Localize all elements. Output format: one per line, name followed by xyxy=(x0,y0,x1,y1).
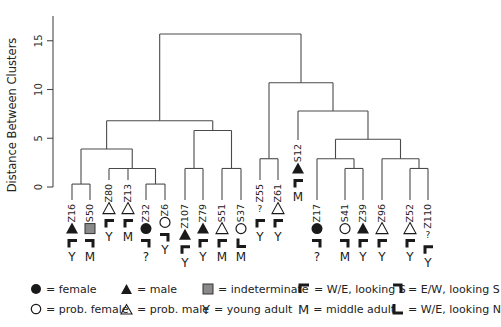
bracket-ew-south-icon xyxy=(392,283,404,295)
legend-we-looking-n: = W/E, looking N xyxy=(392,300,501,318)
legend-we-looking-s: = W/E, looking S xyxy=(298,280,406,298)
legend-prob-male: = prob. male xyxy=(120,300,209,318)
y-axis-label-wrap: Distance Between Clusters xyxy=(2,35,26,195)
gray-square-icon xyxy=(85,224,95,234)
filled-triangle-icon xyxy=(197,223,209,234)
open-triangle-icon xyxy=(272,203,284,214)
filled-triangle-icon xyxy=(120,283,133,295)
leaf-label: Z13 xyxy=(122,184,133,203)
bracket-we-south-icon xyxy=(125,221,133,228)
leaf-label: Z17 xyxy=(311,204,322,223)
bracket-we-north-icon xyxy=(238,239,246,247)
unknown-sex-mark: ? xyxy=(426,230,431,240)
bracket-we-south-icon xyxy=(257,221,265,228)
bracket-ew-south-icon xyxy=(160,234,168,241)
y-axis-label: Distance Between Clusters xyxy=(5,38,19,193)
bracket-we-south-icon xyxy=(275,221,283,228)
bracket-ew-south-icon xyxy=(141,241,149,248)
bracket-we-south-icon xyxy=(379,241,387,248)
filled-circle-icon xyxy=(141,223,152,234)
age-class-label: Y xyxy=(104,230,113,244)
bracket-we-south-icon xyxy=(298,283,310,295)
young-adult-symbol: Y xyxy=(202,302,210,317)
filled-circle-icon xyxy=(30,283,42,295)
age-class-label: M xyxy=(236,250,246,264)
open-triangle-icon xyxy=(216,223,228,234)
unknown-sex-mark: ? xyxy=(258,204,263,214)
leaf-label: Z96 xyxy=(376,204,387,223)
age-class-label: M xyxy=(293,190,303,204)
bracket-we-south-icon xyxy=(200,241,208,248)
open-triangle-icon xyxy=(120,303,133,315)
leaf-label: Z16 xyxy=(66,204,77,223)
bracket-we-south-icon xyxy=(106,221,114,228)
age-class-label: M xyxy=(85,250,95,264)
age-class-label: Y xyxy=(405,250,414,264)
age-class-label: Y xyxy=(198,250,207,264)
y-tick-label: 10 xyxy=(33,83,44,96)
bracket-ew-south-icon xyxy=(340,241,348,248)
age-class-label: Y xyxy=(180,256,189,270)
age-class-label: M xyxy=(217,250,227,264)
legend-prob-female: = prob. female xyxy=(30,300,129,318)
gray-square-icon xyxy=(202,283,214,295)
filled-triangle-icon xyxy=(292,163,304,174)
bracket-we-south-icon xyxy=(295,181,303,188)
leaf-label: S41 xyxy=(339,204,350,222)
legend-middle-adult: M = middle adult xyxy=(298,300,395,318)
legend-young-adult: Y = young adult xyxy=(202,300,292,318)
legend-ew-looking-s: = E/W, looking S xyxy=(392,280,500,298)
dendrogram-chart: 051015Z16YS50MZ80YZ13MZ32?Z6YZ107YZ79YS5… xyxy=(0,0,486,280)
leaf-label: S51 xyxy=(216,204,227,222)
leaf-label: Z6 xyxy=(159,204,170,217)
bracket-ew-south-icon xyxy=(312,241,320,248)
age-class-label: Y xyxy=(358,250,367,264)
middle-adult-symbol: M xyxy=(298,302,309,317)
leaf-label: Z55 xyxy=(254,184,265,203)
leaf-label: S50 xyxy=(84,204,95,222)
leaf-label: S12 xyxy=(292,144,303,162)
bracket-we-south-icon xyxy=(360,241,368,248)
open-circle-icon xyxy=(30,303,42,315)
age-class-label: M xyxy=(340,250,350,264)
filled-circle-icon xyxy=(312,223,323,234)
leaf-label: Z32 xyxy=(140,204,151,223)
leaf-label: Z107 xyxy=(179,204,190,229)
age-class-label: Y xyxy=(377,250,386,264)
open-triangle-icon xyxy=(404,223,416,234)
leaf-label: Z80 xyxy=(103,184,114,203)
leaf-label: Z79 xyxy=(197,204,208,223)
bracket-we-south-icon xyxy=(182,247,190,254)
open-triangle-icon xyxy=(122,203,134,214)
legend-indeterminate: = indeterminate xyxy=(202,280,308,298)
legend-row-2: = prob. female = prob. male Y = young ad… xyxy=(30,300,486,318)
age-class-label: ? xyxy=(314,250,320,264)
bracket-we-south-icon xyxy=(219,241,227,248)
open-triangle-icon xyxy=(376,223,388,234)
leaf-label: Z110 xyxy=(422,204,433,229)
legend-male: = male xyxy=(120,280,177,298)
y-tick-label: 5 xyxy=(33,135,44,141)
legend-female: = female xyxy=(30,280,97,298)
y-tick-label: 0 xyxy=(33,184,44,190)
age-class-label: Y xyxy=(273,230,282,244)
filled-triangle-icon xyxy=(357,223,369,234)
age-class-label: M xyxy=(123,230,133,244)
age-class-label: Y xyxy=(255,230,264,244)
y-tick-label: 15 xyxy=(33,34,44,47)
age-class-label: Y xyxy=(67,250,76,264)
open-circle-icon xyxy=(340,224,350,234)
bracket-we-south-icon xyxy=(69,241,77,248)
bracket-we-south-icon xyxy=(425,247,433,254)
legend-row-1: = female = male = indeterminate = W/E, l… xyxy=(30,280,486,298)
age-class-label: Y xyxy=(160,243,169,257)
filled-triangle-icon xyxy=(179,229,191,240)
leaf-label: Z52 xyxy=(404,204,415,223)
leaf-label: S37 xyxy=(235,204,246,222)
open-circle-icon xyxy=(236,224,246,234)
bracket-ew-south-icon xyxy=(85,241,93,248)
age-class-label: ? xyxy=(143,250,149,264)
legend: = female = male = indeterminate = W/E, l… xyxy=(30,280,486,325)
open-circle-icon xyxy=(160,217,170,227)
age-class-label: Y xyxy=(423,256,432,270)
